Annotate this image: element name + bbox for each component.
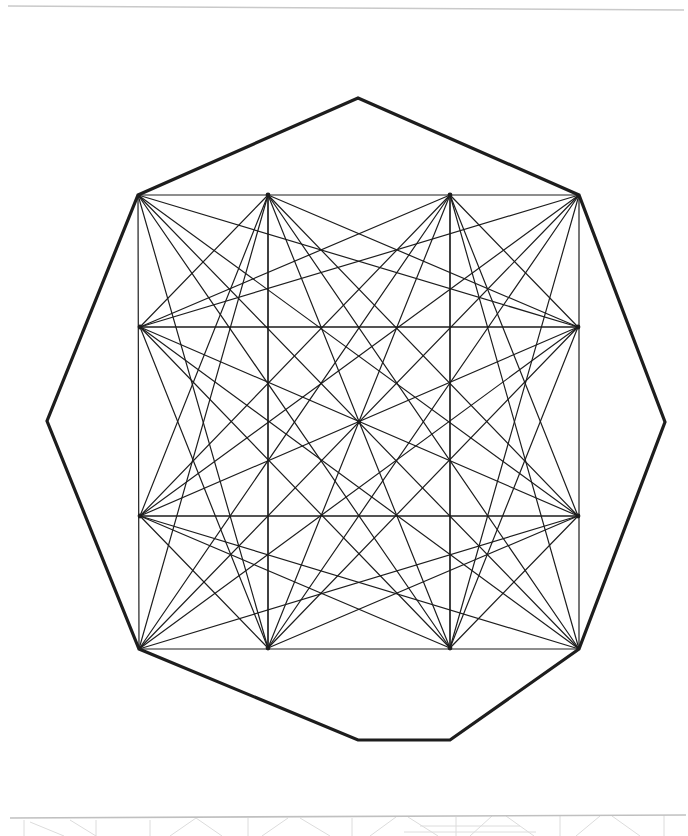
page-background <box>0 0 688 836</box>
octagon-hub-node <box>266 646 271 651</box>
octagon-hub-node <box>576 325 581 330</box>
octagon-hub-node <box>576 514 581 519</box>
center-node-marker <box>357 420 361 424</box>
octagon-hub-node <box>138 514 143 519</box>
octagon-hub-node <box>138 325 143 330</box>
figure-center-node <box>357 420 361 424</box>
octagon-hub-node <box>266 193 271 198</box>
octagon-hub-node <box>448 193 453 198</box>
octagon-hub-node <box>448 646 453 651</box>
geometric-figure-canvas <box>0 0 688 836</box>
figure-plate <box>0 0 688 836</box>
